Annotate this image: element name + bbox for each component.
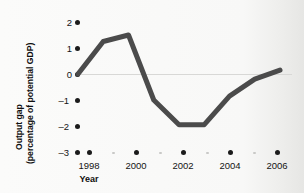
chart-screenshot: Output gap (percentage of potential GDP)…	[0, 0, 304, 193]
plot-area: 2 1 0 –1 –2 –3 1998 2000 2002 2004 2006 …	[0, 0, 304, 193]
output-gap-line-series	[0, 0, 304, 193]
